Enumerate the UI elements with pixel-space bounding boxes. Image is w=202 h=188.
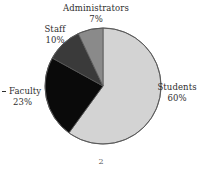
slice-label-staff-percent: 10% xyxy=(26,35,84,46)
slice-label-students-percent: 60% xyxy=(152,93,202,104)
page-number: 2 xyxy=(0,157,202,166)
slice-label-faculty-percent: 23% xyxy=(13,97,64,108)
slice-label-faculty-name: Faculty xyxy=(9,86,41,97)
slice-label-students-name: Students xyxy=(157,82,196,92)
slice-label-staff: Staff 10% xyxy=(26,24,84,45)
leader-dash-icon xyxy=(2,91,6,92)
slice-label-administrators: Administrators 7% xyxy=(46,3,146,24)
slice-label-administrators-percent: 7% xyxy=(46,14,146,25)
pie-chart-figure: Administrators 7% Staff 10% Faculty 23% … xyxy=(0,0,202,188)
slice-label-staff-name: Staff xyxy=(44,24,65,34)
slice-label-students: Students 60% xyxy=(152,82,202,103)
slice-label-administrators-name: Administrators xyxy=(63,3,129,13)
slice-label-faculty: Faculty 23% xyxy=(2,86,64,107)
